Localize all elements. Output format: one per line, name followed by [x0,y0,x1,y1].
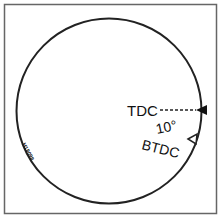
tdc-label: TDC [127,102,158,119]
btdc-label: BTDC [140,136,181,161]
frame [5,5,217,214]
figure-code: H18098 [21,142,35,162]
timing-mark-diagram: TDC 10° BTDC H18098 [0,0,220,222]
angle-label: 10° [154,117,178,137]
pulley-circle [17,19,202,204]
btdc-mark-icon [188,134,197,144]
